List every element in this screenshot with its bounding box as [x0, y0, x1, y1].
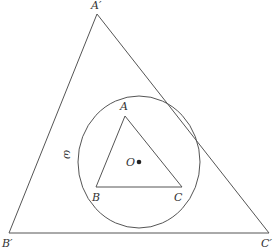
label-vertex-a-prime: A′	[90, 0, 102, 12]
label-vertex-c: C	[174, 191, 183, 204]
label-vertex-b: B	[91, 191, 100, 204]
label-vertex-b-prime: B′	[1, 237, 13, 250]
diagram-canvas: A′ B′ C′ A B C O ω	[0, 0, 280, 252]
label-vertex-a: A	[119, 100, 128, 113]
inner-triangle	[96, 116, 182, 187]
label-circle-omega: ω	[61, 150, 74, 159]
center-point-dot	[137, 160, 142, 165]
label-center-o: O	[126, 156, 135, 169]
outer-triangle	[9, 14, 269, 233]
geometry-figure: A′ B′ C′ A B C O ω	[0, 0, 280, 252]
label-vertex-c-prime: C′	[261, 237, 272, 250]
